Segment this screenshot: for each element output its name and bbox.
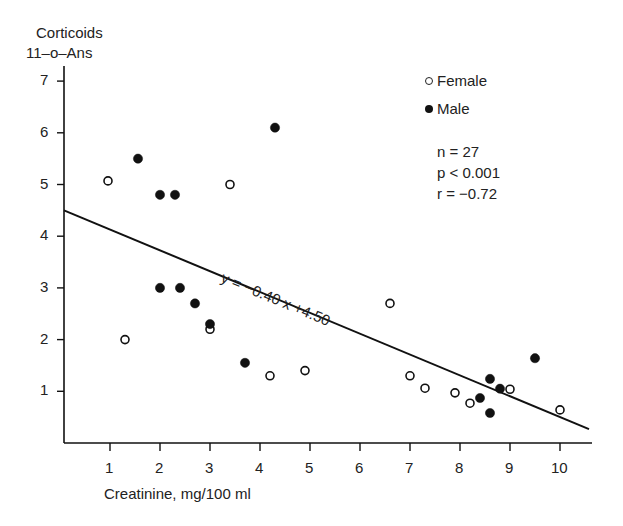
x-tick-label: 4 — [255, 459, 263, 477]
x-tick-label: 10 — [551, 459, 568, 477]
legend-label: Female — [437, 72, 487, 89]
male-point — [240, 358, 249, 367]
x-tick-label: 1 — [105, 459, 113, 477]
y-axis-label-line2: 11–o–Ans — [26, 44, 92, 62]
male-point — [530, 354, 539, 363]
male-point — [270, 123, 279, 132]
y-tick-label: 5 — [40, 175, 48, 193]
legend-item-male: Male — [425, 100, 470, 117]
y-tick-label: 2 — [40, 330, 48, 348]
female-point — [451, 389, 459, 397]
x-axis-label: Creatinine, mg/100 ml — [104, 485, 251, 503]
male-point — [155, 283, 164, 292]
x-tick-label: 5 — [305, 459, 313, 477]
female-point — [386, 299, 394, 307]
male-point — [133, 154, 142, 163]
y-tick-label: 3 — [40, 278, 48, 296]
male-point — [485, 408, 494, 417]
stat-p: p < 0.001 — [437, 164, 500, 182]
female-point — [104, 177, 112, 185]
male-point — [175, 283, 184, 292]
female-point — [266, 372, 274, 380]
y-tick-label: 4 — [40, 226, 48, 244]
female-point — [466, 399, 474, 407]
y-tick-label: 7 — [40, 71, 48, 89]
scatter-plot — [0, 0, 623, 526]
female-point — [421, 384, 429, 392]
filled-circle-icon — [425, 105, 433, 113]
female-point — [556, 406, 564, 414]
stat-n: n = 27 — [437, 143, 479, 161]
legend-item-female: Female — [425, 72, 487, 89]
open-circle-icon — [425, 77, 433, 85]
female-point — [121, 336, 129, 344]
legend-label: Male — [437, 100, 470, 117]
x-tick-label: 8 — [455, 459, 463, 477]
stat-r: r = −0.72 — [437, 185, 497, 203]
female-point — [226, 181, 234, 189]
female-point — [406, 372, 414, 380]
male-point — [155, 190, 164, 199]
x-tick-label: 2 — [155, 459, 163, 477]
y-tick-label: 1 — [40, 381, 48, 399]
male-point — [190, 299, 199, 308]
x-tick-label: 9 — [505, 459, 513, 477]
female-point — [506, 385, 514, 393]
male-point — [495, 384, 504, 393]
y-tick-label: 6 — [40, 123, 48, 141]
y-axis-label-line1: Corticoids — [36, 24, 103, 42]
male-point — [170, 190, 179, 199]
male-point — [205, 319, 214, 328]
male-point — [485, 374, 494, 383]
female-point — [301, 367, 309, 375]
male-point — [475, 393, 484, 402]
x-tick-label: 3 — [205, 459, 213, 477]
x-tick-label: 7 — [405, 459, 413, 477]
x-tick-label: 6 — [355, 459, 363, 477]
